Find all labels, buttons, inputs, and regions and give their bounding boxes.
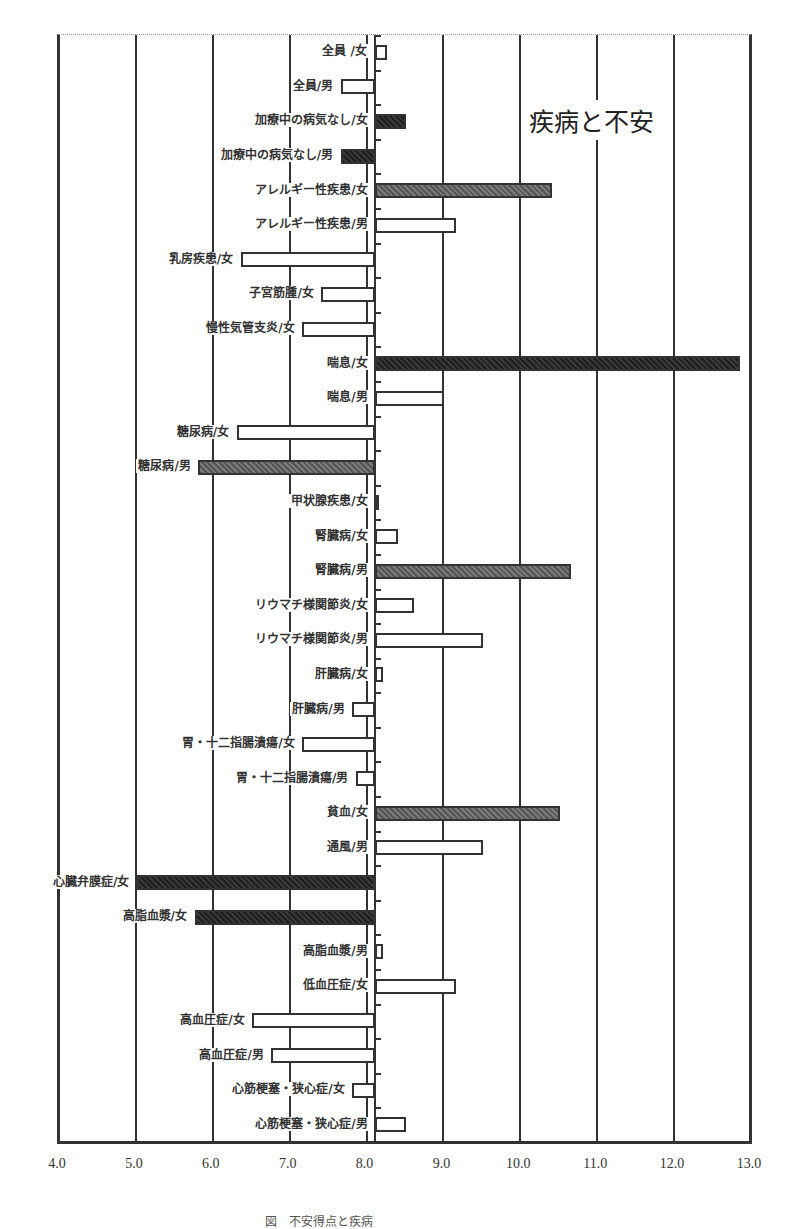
category-label: 慢性気管支炎/女 <box>204 321 296 335</box>
y-tick <box>376 589 381 591</box>
x-tick-label: 13.0 <box>737 1156 762 1172</box>
category-label: 心臓弁膜症/女 <box>51 875 131 889</box>
category-label: 貧血/女 <box>325 805 369 819</box>
bar <box>375 1117 406 1132</box>
y-tick <box>376 35 381 37</box>
bar <box>375 45 387 60</box>
gridline <box>673 35 675 1141</box>
category-label: 全員 /女 <box>320 44 369 58</box>
y-tick <box>376 554 381 556</box>
y-tick <box>376 1073 381 1075</box>
bar <box>352 1083 375 1098</box>
bar <box>321 287 375 302</box>
y-tick <box>376 1004 381 1006</box>
gridline <box>596 35 598 1141</box>
y-tick <box>376 208 381 210</box>
gridline <box>442 35 444 1141</box>
category-label: 乳房疾患/女 <box>167 252 235 266</box>
y-tick <box>376 796 381 798</box>
x-tick-label: 4.0 <box>48 1156 66 1172</box>
y-tick <box>376 865 381 867</box>
bar <box>375 114 406 129</box>
y-tick <box>376 1038 381 1040</box>
category-label: アレルギー性疾患/女 <box>253 183 369 197</box>
chart-title: 疾病と不安 <box>525 100 658 140</box>
bar <box>195 910 376 925</box>
figure-caption: 図 不安得点と疾病 <box>265 1212 373 1229</box>
gridline <box>212 35 214 1141</box>
y-tick <box>376 727 381 729</box>
x-tick-label: 8.0 <box>356 1156 374 1172</box>
category-label: リウマチ様関節炎/女 <box>253 598 369 612</box>
category-label: 腎臓病/男 <box>313 563 369 577</box>
bar <box>302 737 375 752</box>
y-tick <box>376 312 381 314</box>
bar <box>198 460 375 475</box>
bar <box>375 840 483 855</box>
gridline <box>366 35 368 1141</box>
category-label: 甲状腺疾患/女 <box>289 494 369 508</box>
bar <box>375 806 560 821</box>
y-tick <box>376 243 381 245</box>
bar <box>352 702 375 717</box>
category-label: 通風/男 <box>325 840 369 854</box>
y-tick <box>376 139 381 141</box>
gridline <box>289 35 291 1141</box>
y-tick <box>376 450 381 452</box>
bar <box>375 598 413 613</box>
bar <box>375 391 444 406</box>
y-tick <box>376 104 381 106</box>
y-tick <box>376 1107 381 1109</box>
bar <box>271 1048 375 1063</box>
category-label: 腎臓病/女 <box>313 529 369 543</box>
category-label: 高脂血漿/女 <box>121 909 189 923</box>
bar <box>375 183 552 198</box>
bar <box>375 667 383 682</box>
y-tick <box>376 173 381 175</box>
category-label: 糖尿病/男 <box>136 459 192 473</box>
bar <box>375 564 571 579</box>
category-label: アレルギー性疾患/男 <box>253 217 369 231</box>
y-tick <box>376 277 381 279</box>
y-tick <box>376 485 381 487</box>
gridline <box>519 35 521 1141</box>
y-tick <box>376 831 381 833</box>
bar <box>375 218 456 233</box>
bar <box>375 633 483 648</box>
y-tick <box>376 658 381 660</box>
bar <box>341 149 376 164</box>
x-tick-label: 7.0 <box>279 1156 297 1172</box>
y-tick <box>376 519 381 521</box>
category-label: 心筋梗塞・狭心症/女 <box>230 1082 346 1096</box>
bar <box>302 322 375 337</box>
category-label: 喘息/女 <box>325 356 369 370</box>
y-tick <box>376 623 381 625</box>
category-label: 子宮筋腫/女 <box>247 286 315 300</box>
bar <box>341 79 376 94</box>
x-tick-label: 12.0 <box>660 1156 685 1172</box>
y-tick <box>376 381 381 383</box>
y-tick <box>376 900 381 902</box>
bar <box>375 356 740 371</box>
category-label: 高脂血漿/男 <box>301 944 369 958</box>
gridline <box>135 35 137 1141</box>
x-tick-label: 9.0 <box>433 1156 451 1172</box>
x-tick-label: 11.0 <box>583 1156 607 1172</box>
category-label: 胃・十二指腸潰瘍/女 <box>180 736 296 750</box>
bar <box>137 875 375 890</box>
category-label: 心筋梗塞・狭心症/男 <box>253 1117 369 1131</box>
bar <box>375 495 379 510</box>
category-label: 全員/男 <box>291 79 335 93</box>
bar <box>375 529 398 544</box>
category-label: 喘息/男 <box>325 390 369 404</box>
category-label: 加療中の病気なし/女 <box>253 113 369 127</box>
category-label: リウマチ様関節炎/男 <box>253 632 369 646</box>
y-tick <box>376 761 381 763</box>
y-tick <box>376 934 381 936</box>
x-tick-label: 6.0 <box>202 1156 220 1172</box>
bar <box>356 771 375 786</box>
plot-area <box>57 34 752 1144</box>
x-tick-label: 5.0 <box>125 1156 143 1172</box>
bar <box>375 944 383 959</box>
bar <box>237 425 375 440</box>
